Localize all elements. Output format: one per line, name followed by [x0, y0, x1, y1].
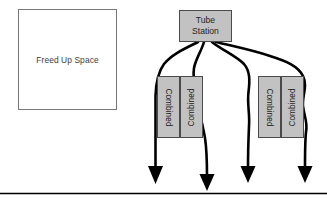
combined-box-right-b-label: Combined [288, 88, 297, 126]
tube-station-label-line1: Tube [196, 15, 215, 25]
connector-arrowhead-4 [298, 166, 313, 183]
connector-arrowhead-3 [241, 166, 256, 183]
freed-up-space-box: Freed Up Space [18, 9, 117, 110]
freed-up-space-label: Freed Up Space [36, 55, 98, 65]
connector-arrowhead-2 [200, 174, 215, 191]
tube-station-label: Tube Station [192, 15, 219, 36]
tube-station-label-line2: Station [192, 26, 219, 36]
combined-box-left-b-label: Combined [187, 88, 196, 126]
combined-box-right-b: Combined [281, 76, 304, 138]
combined-box-left-a: Combined [157, 76, 180, 138]
combined-box-right-a-label: Combined [265, 88, 274, 126]
connector-path-3 [212, 42, 249, 168]
combined-box-left-b: Combined [180, 76, 203, 138]
diagram-canvas: Freed Up Space Tube Station Combined Com… [0, 0, 327, 199]
combined-box-right-a: Combined [258, 76, 281, 138]
combined-box-left-a-label: Combined [164, 88, 173, 126]
connector-arrowhead-1 [148, 166, 163, 184]
tube-station-box: Tube Station [179, 10, 232, 42]
